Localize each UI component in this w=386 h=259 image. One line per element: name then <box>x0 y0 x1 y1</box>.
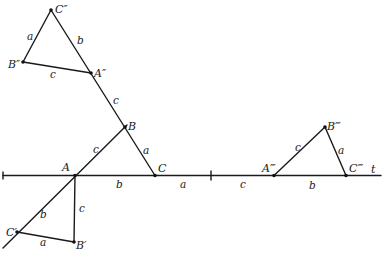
vertex-dot-c <box>153 174 157 178</box>
vertex-dot-c3 <box>344 174 348 178</box>
side-a-bc: a <box>143 144 149 156</box>
side-c-baseline: c <box>240 178 246 190</box>
line-a-b-extended <box>3 125 127 248</box>
side-b-ac: b <box>116 178 123 190</box>
baseline-t: t <box>3 163 381 180</box>
vertex-labels: ABCA″B″C″C′B′A‴B‴C‴ <box>6 3 363 252</box>
side-c-ab: c <box>93 143 99 155</box>
vertex-label-a: A <box>61 161 70 174</box>
vertex-label-c: C <box>158 162 167 175</box>
vertex-label-a2: A″ <box>93 67 107 80</box>
vertex-label-a1: C′ <box>6 226 17 239</box>
side-a-c1b1: a <box>40 236 46 248</box>
vertex-points <box>15 8 348 244</box>
diagram-svg: t ABCA″B″C″C′B′A‴B‴C‴ abcccabacbcacab <box>0 0 386 259</box>
side-a-b2c2: a <box>27 30 33 42</box>
triangle-segments <box>3 10 346 248</box>
vertex-dot-b <box>123 125 127 129</box>
side-a-baseline: a <box>180 178 186 190</box>
geometry-diagram: t ABCA″B″C″C′B′A‴B‴C‴ abcccabacbcacab <box>0 0 386 259</box>
side-b-c2a2: b <box>77 34 84 46</box>
vertex-dot-a <box>73 174 77 178</box>
side-c-a3b3: c <box>295 141 301 153</box>
side-c-a2b: c <box>113 94 119 106</box>
line-b2-a2 <box>23 62 91 73</box>
vertex-label-b2: B″ <box>7 58 21 71</box>
baseline-label-t: t <box>371 163 376 176</box>
side-c-b2a2: c <box>50 68 56 80</box>
vertex-label-a3: A‴ <box>261 162 276 175</box>
vertex-label-c2: C″ <box>55 3 68 16</box>
line-c2-to-c <box>51 10 155 176</box>
side-b-ac1: b <box>40 208 47 220</box>
line-a-b1 <box>74 176 75 243</box>
vertex-label-b: B <box>127 120 136 133</box>
side-a-b3c3: a <box>338 144 344 156</box>
side-c-ab1: c <box>79 202 85 214</box>
vertex-dot-c2 <box>49 8 53 12</box>
vertex-label-c3: C‴ <box>349 162 363 175</box>
vertex-dot-a2 <box>89 71 93 75</box>
vertex-label-b3: B‴ <box>326 120 341 133</box>
vertex-dot-b2 <box>21 60 25 64</box>
side-b-a3c3: b <box>309 179 316 191</box>
vertex-label-b1: B′ <box>75 239 87 252</box>
